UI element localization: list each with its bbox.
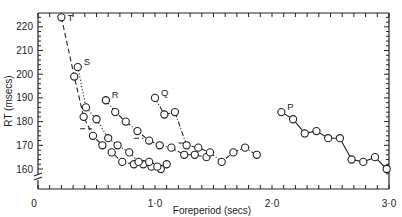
data-point-t [99,142,106,149]
chart-canvas: 16017018019020021022001·02·03·0Foreperio… [0,0,402,217]
data-point-s [126,149,133,156]
data-point-s [82,104,89,111]
data-point-r [102,97,109,104]
series-layer [58,14,390,173]
data-point-q [230,149,237,156]
data-point-p [278,109,285,116]
axes: 16017018019020021022001·02·03·0Foreperio… [3,13,397,216]
data-point-p [336,135,343,142]
data-point-s [135,158,142,165]
y-tick-label: 160 [16,164,33,175]
data-point-p [348,156,355,163]
data-point-p [371,154,378,161]
series-label-p: P [287,101,293,112]
data-point-q [218,158,225,165]
x-tick-label: 2·0 [265,198,280,209]
data-point-t [108,149,115,156]
data-point-s [154,163,161,170]
data-point-r [181,151,188,158]
data-point-p [301,130,308,137]
data-point-r [134,127,141,134]
data-point-r [146,137,153,144]
data-point-s [93,116,100,123]
data-point-q [206,149,213,156]
series-label-t: T [67,12,73,23]
data-point-q [161,111,168,118]
foreperiod-rt-chart: 16017018019020021022001·02·03·0Foreperio… [0,0,402,217]
series-label-s: S [84,56,90,67]
data-point-q [241,144,248,151]
data-point-t [71,73,78,80]
data-point-t [80,113,87,120]
x-tick-label: 3·0 [382,198,397,209]
data-point-t [89,132,96,139]
labels-layer: TSRQP [67,12,293,112]
y-tick-label: 200 [16,69,33,80]
data-point-s [114,142,121,149]
data-point-r [112,109,119,116]
data-point-p [313,127,320,134]
data-point-p [325,135,332,142]
x-tick-label: 1·0 [148,198,163,209]
data-point-r [168,144,175,151]
data-point-s [105,135,112,142]
y-tick-label: 220 [16,21,33,32]
series-label-q: Q [161,87,168,98]
series-label-r: R [112,89,119,100]
data-point-s [74,63,81,70]
series-line-p [281,112,386,169]
x-tick-label: 0 [31,198,37,209]
data-point-s [146,158,153,165]
data-point-r [191,151,198,158]
axis-break-icon [34,173,42,180]
data-point-q [171,109,178,116]
data-point-q [195,144,202,151]
data-point-s [163,161,170,168]
series-line-r [106,100,207,157]
data-point-p [360,158,367,165]
data-point-q [253,151,260,158]
y-tick-label: 180 [16,116,33,127]
data-point-q [151,94,158,101]
y-tick-label: 190 [16,92,33,103]
series-line-s [78,67,167,167]
data-point-r [122,118,129,125]
data-point-t [58,14,65,21]
y-tick-label: 170 [16,140,33,151]
x-axis-title: Foreperiod (secs) [173,205,251,216]
data-point-t [119,158,126,165]
data-point-p [289,116,296,123]
y-axis-title: RT (msecs) [3,75,14,126]
y-tick-label: 210 [16,45,33,56]
data-point-p [383,165,390,172]
data-point-r [156,142,163,149]
